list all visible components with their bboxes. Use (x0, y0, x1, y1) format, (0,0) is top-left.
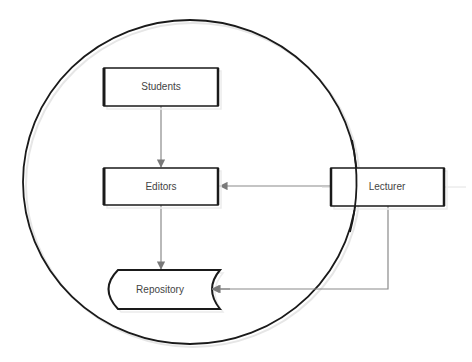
edge-lecturer-repository (213, 206, 388, 289)
node-repository[interactable]: Repository (109, 270, 224, 312)
node-repository-label: Repository (136, 284, 184, 295)
node-lecturer[interactable]: Lecturer (331, 168, 447, 209)
node-students[interactable]: Students (104, 68, 221, 109)
diagram-canvas: Students Editors Lecturer Repository (0, 0, 472, 362)
node-editors[interactable]: Editors (104, 168, 221, 208)
node-editors-label: Editors (145, 181, 176, 192)
node-lecturer-label: Lecturer (369, 181, 406, 192)
node-students-label: Students (141, 81, 180, 92)
